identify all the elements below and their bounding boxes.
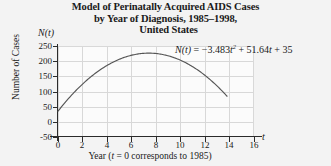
chart-figure: Model of Perinatally Acquired AIDS Cases… xyxy=(0,0,331,166)
parabola-curve xyxy=(58,53,227,111)
curve-layer xyxy=(0,0,331,166)
